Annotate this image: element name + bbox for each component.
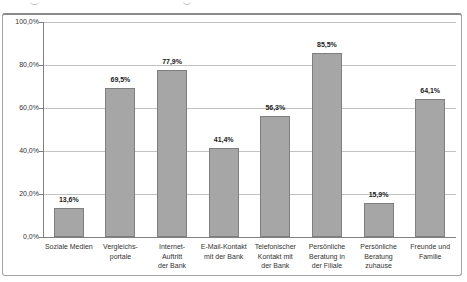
- category-label: Telefonischer Kontakt mit der Bank: [247, 242, 305, 271]
- bar-value-label: 85,5%: [301, 40, 353, 49]
- bar-value-label: 15,9%: [353, 190, 405, 199]
- category-label: Persönliche Beratung zuhause: [350, 242, 408, 271]
- bar: [54, 208, 84, 237]
- category-label: Soziale Medien: [40, 242, 98, 252]
- bar-value-label: 77,9%: [146, 57, 198, 66]
- bar: [209, 148, 239, 237]
- x-axis-line: [39, 237, 456, 238]
- category-label: Freunde und Familie: [401, 242, 459, 261]
- gridline: [43, 65, 456, 66]
- cropped-text-fragment: [30, 0, 39, 5]
- bar-value-label: 41,4%: [198, 135, 250, 144]
- bar: [364, 203, 394, 237]
- bar: [157, 70, 187, 237]
- bar-value-label: 64,1%: [404, 86, 456, 95]
- category-label: E-Mail-Kontakt mit der Bank: [195, 242, 253, 261]
- category-label: Vergleichs- portale: [92, 242, 150, 261]
- y-tick-label: 40,0%: [1, 147, 39, 155]
- y-tick-label: 80,0%: [1, 61, 39, 69]
- category-label: Internet- Auftritt der Bank: [143, 242, 201, 271]
- bar: [415, 99, 445, 237]
- bar-value-label: 69,5%: [95, 75, 147, 84]
- bar: [260, 116, 290, 237]
- y-tick-label: 100,0%: [1, 18, 39, 26]
- y-tick-label: 60,0%: [1, 104, 39, 112]
- bar-value-label: 56,3%: [250, 103, 302, 112]
- cropped-text-fragment: [183, 0, 191, 5]
- y-tick-label: 20,0%: [1, 190, 39, 198]
- bar: [105, 88, 135, 237]
- gridline: [43, 22, 456, 23]
- y-axis-line: [43, 22, 44, 237]
- bar: [312, 53, 342, 237]
- category-label: Persönliche Beratung in der Filiale: [298, 242, 356, 271]
- bar-chart-figure: 0,0%20,0%40,0%60,0%80,0%100,0% 13,6%69,5…: [0, 0, 467, 282]
- y-tick-label: 0,0%: [1, 233, 39, 241]
- bar-value-label: 13,6%: [43, 195, 95, 204]
